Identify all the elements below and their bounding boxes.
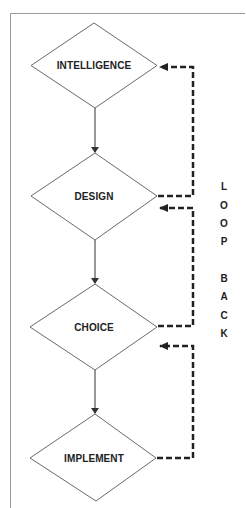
side-letter: B: [218, 273, 230, 284]
loop-design-to-intelligence: [158, 67, 193, 196]
side-letter: C: [218, 310, 230, 321]
node-label-intelligence: INTELLIGENCE: [57, 60, 132, 71]
node-label-choice: CHOICE: [74, 322, 114, 333]
node-design: DESIGN: [31, 153, 157, 240]
side-letter: O: [218, 218, 230, 229]
node-intelligence: INTELLIGENCE: [31, 23, 157, 108]
flowchart-canvas: INTELLIGENCE DESIGN CHOICE IMPLEMENT: [0, 0, 245, 508]
feedback-arrows: [157, 67, 193, 458]
node-implement: IMPLEMENT: [30, 414, 156, 501]
side-letter: L: [218, 181, 230, 192]
side-letter: K: [218, 328, 230, 339]
loop-choice-to-design: [158, 208, 193, 326]
side-letter: A: [218, 291, 230, 302]
node-label-design: DESIGN: [75, 191, 114, 202]
frame-border: [11, 14, 246, 508]
node-choice: CHOICE: [30, 284, 157, 370]
node-label-implement: IMPLEMENT: [64, 453, 124, 464]
side-letter: P: [218, 236, 230, 247]
side-letter: O: [218, 200, 230, 211]
loop-implement-to-choice: [157, 346, 193, 458]
